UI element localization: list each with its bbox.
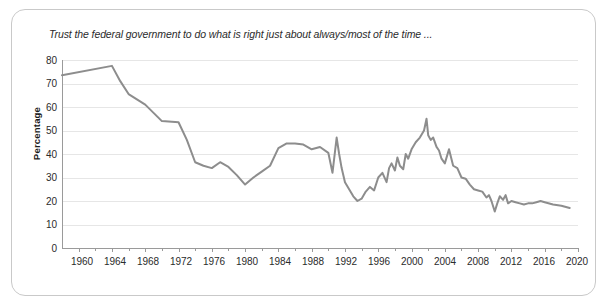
gridlines [62, 61, 578, 226]
y-tick-label: 40 [31, 149, 57, 160]
y-tick-label: 60 [31, 102, 57, 113]
line-chart: Percentage 80 70 60 50 40 30 20 10 0 196… [0, 0, 607, 305]
y-tick-label: 50 [31, 125, 57, 136]
y-tick-label: 0 [31, 243, 57, 254]
data-line-trust-federal-government [62, 66, 570, 212]
y-tick-label: 70 [31, 78, 57, 89]
y-tick-label: 10 [31, 219, 57, 230]
y-tick-label: 80 [31, 55, 57, 66]
x-tick-label: 2020 [557, 256, 597, 267]
y-tick-label: 30 [31, 172, 57, 183]
y-tick-label: 20 [31, 196, 57, 207]
